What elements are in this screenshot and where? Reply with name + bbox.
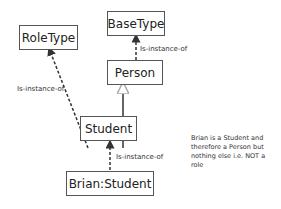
node-person: Person [107, 60, 163, 85]
node-student: Student [80, 116, 137, 141]
node-roletype: RoleType [19, 25, 78, 50]
node-label: BaseType [108, 17, 165, 31]
edge-label-brian-student: Is-instance-of [116, 153, 163, 161]
edge-label-student-roletype: Is-instance-of [17, 85, 64, 93]
node-label: RoleType [22, 31, 75, 45]
annotation-note: Brian is a Student and therefore a Perso… [191, 134, 276, 170]
node-label: Student [85, 122, 132, 136]
node-brian: Brian:Student [66, 171, 154, 196]
node-basetype: BaseType [107, 11, 165, 36]
node-label: Brian:Student [69, 177, 152, 191]
edge-label-person-basetype: Is-instance-of [140, 45, 187, 53]
node-label: Person [115, 66, 155, 80]
